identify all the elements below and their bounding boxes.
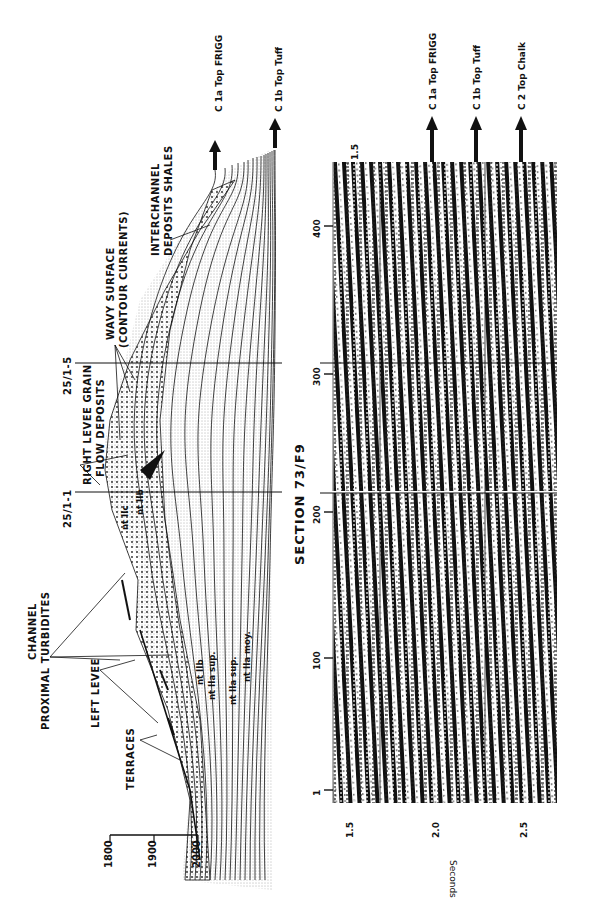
unit-label-nt-iia-sup: nt IIa sup. — [207, 651, 217, 700]
label-proximal-turbidites: PROXIMAL TURBIDITES — [40, 591, 51, 730]
horizon-label-c1b-tuff-upper: C 1b Top Tuff — [274, 47, 284, 112]
time-tick-2-5: 2.5 — [519, 822, 529, 838]
well-label-25-1-1: 25/1-1 — [62, 489, 73, 528]
trace-tick-200: 200 — [312, 505, 322, 524]
seismic-section — [320, 116, 557, 803]
trace-tick-100: 100 — [312, 651, 322, 670]
label-wavy-surface: WAVY SURFACE — [105, 247, 116, 340]
figure-canvas: 25/1-1 25/1-5 CHANNEL PROXIMAL TURBIDITE… — [0, 0, 589, 903]
unit-label-nt-iib-lower: nt IIb — [195, 660, 205, 685]
depth-tick-1800: 1800 — [103, 840, 114, 868]
time-tick-1-5: 1.5 — [345, 822, 355, 838]
unit-label-nt-iia-sup-2: nt IIa sup. — [228, 656, 238, 705]
horizon-label-c1a-frigg-upper: C 1a Top FRIGG — [214, 35, 224, 112]
unit-label-nt-iic: nt IIc — [120, 506, 130, 530]
time-tick-2-0: 2.0 — [431, 822, 441, 838]
horizon-label-c2-chalk: C 2 Top Chalk — [517, 42, 527, 110]
label-right-levee-2: FLOW DEPOSITS — [95, 379, 106, 477]
label-left-levee: LEFT LEVEE — [90, 658, 101, 728]
horizon-label-c1a-frigg: C 1a Top FRIGG — [428, 33, 438, 110]
trace-tick-400: 400 — [312, 219, 322, 238]
label-terraces: TERRACES — [125, 728, 136, 790]
label-deposits-shales: DEPOSITS SHALES — [163, 145, 174, 256]
label-channel: CHANNEL — [27, 603, 38, 660]
time-tick-top-1-5: 1.5 — [350, 144, 360, 160]
label-contour-currents: (CONTOUR CURRENTS) — [118, 211, 129, 348]
depth-tick-2000: 2000 — [191, 840, 202, 868]
time-axis-label: Seconds — [448, 860, 458, 898]
unit-label-nt-iib: nt IIb — [135, 490, 145, 515]
horizon-label-c1b-tuff: C 1b Top Tuff — [472, 45, 482, 110]
trace-tick-1: 1 — [312, 790, 322, 796]
well-label-25-1-5: 25/1-5 — [62, 356, 73, 395]
unit-label-nt-iia-moy: nt IIa moy. — [242, 631, 252, 682]
depth-tick-1900: 1900 — [147, 840, 158, 868]
trace-tick-300: 300 — [312, 367, 322, 386]
label-interchannel: INTERCHANNEL — [150, 163, 161, 256]
label-right-levee-1: RIGHT LEVEE GRAIN — [82, 364, 93, 485]
figure-title: SECTION 73/F9 — [292, 443, 307, 565]
